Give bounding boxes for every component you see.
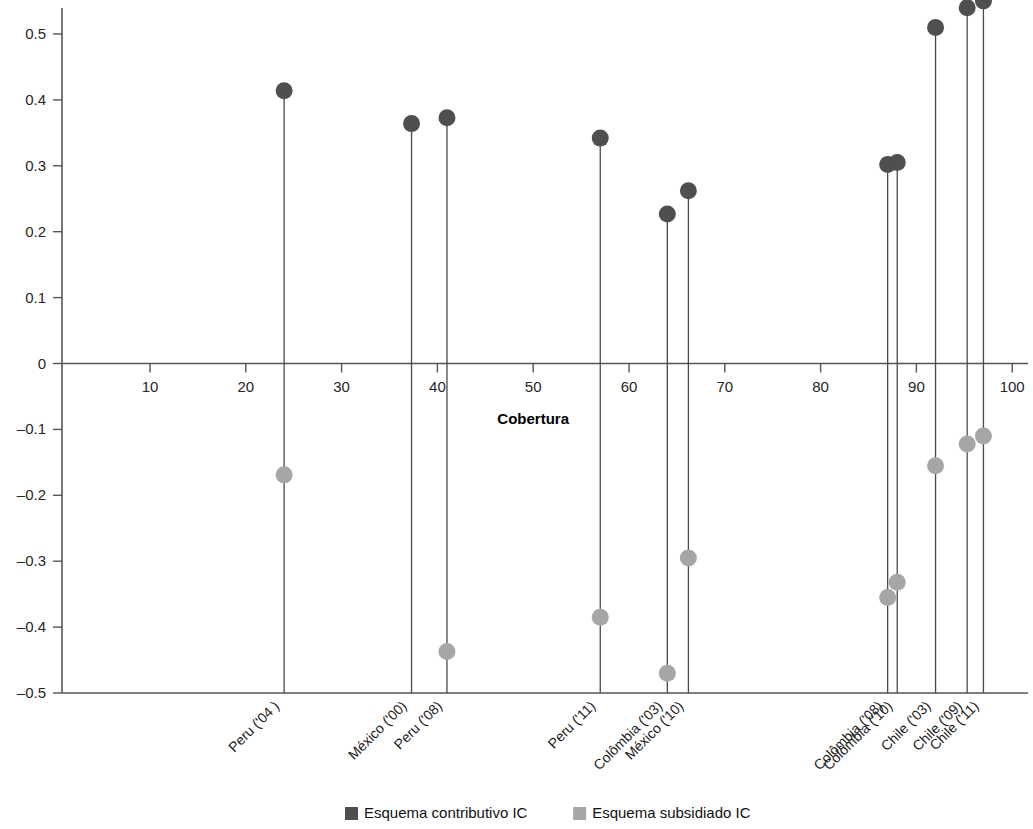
x-axis-ticks: 102030405060708090100 — [142, 364, 1025, 395]
y-tick-label: 0.3 — [25, 157, 46, 174]
category-label: México ('00) — [345, 698, 410, 763]
marker-subsidiado — [879, 589, 896, 606]
marker-contributivo — [276, 82, 293, 99]
chart-legend: Esquema contributivo ICEsquema subsidiad… — [345, 804, 751, 821]
marker-contributivo — [889, 154, 906, 171]
x-tick-label: 90 — [908, 378, 925, 395]
y-tick-label: 0.5 — [25, 25, 46, 42]
category-labels: Peru ('04 )México ('00)Peru ('08)Peru ('… — [225, 698, 982, 773]
x-tick-label: 60 — [621, 378, 638, 395]
marker-contributivo — [438, 109, 455, 126]
marker-subsidiado — [438, 643, 455, 660]
y-axis-ticks: 0.50.40.30.20.10–0.1–0.2–0.3–0.4–0.5 — [17, 25, 62, 701]
marker-subsidiado — [959, 435, 976, 452]
y-tick-label: 0.1 — [25, 289, 46, 306]
y-tick-label: –0.5 — [17, 684, 46, 701]
marker-subsidiado — [927, 457, 944, 474]
x-axis-title: Cobertura — [497, 410, 569, 427]
marker-contributivo — [975, 0, 992, 10]
data-markers — [276, 0, 992, 682]
legend-swatch — [345, 807, 358, 820]
y-tick-label: –0.4 — [17, 618, 46, 635]
marker-contributivo — [403, 115, 420, 132]
y-tick-label: –0.3 — [17, 552, 46, 569]
x-tick-label: 10 — [142, 378, 159, 395]
marker-subsidiado — [680, 549, 697, 566]
marker-subsidiado — [592, 609, 609, 626]
legend-label: Esquema contributivo IC — [364, 804, 528, 821]
marker-subsidiado — [975, 427, 992, 444]
y-tick-label: 0 — [38, 355, 46, 372]
x-tick-label: 30 — [333, 378, 350, 395]
chart-root: 0.50.40.30.20.10–0.1–0.2–0.3–0.4–0.5 102… — [0, 0, 1033, 829]
marker-contributivo — [659, 205, 676, 222]
y-tick-label: 0.4 — [25, 91, 46, 108]
marker-subsidiado — [276, 466, 293, 483]
legend-swatch — [573, 807, 586, 820]
marker-contributivo — [959, 0, 976, 16]
marker-subsidiado — [889, 574, 906, 591]
marker-contributivo — [592, 130, 609, 147]
stem-chart: 0.50.40.30.20.10–0.1–0.2–0.3–0.4–0.5 102… — [0, 0, 1033, 829]
legend-label: Esquema subsidiado IC — [592, 804, 751, 821]
x-tick-label: 80 — [812, 378, 829, 395]
x-tick-label: 100 — [1000, 378, 1025, 395]
marker-subsidiado — [659, 665, 676, 682]
y-tick-label: –0.1 — [17, 420, 46, 437]
y-tick-label: –0.2 — [17, 486, 46, 503]
x-tick-label: 70 — [716, 378, 733, 395]
x-tick-label: 40 — [429, 378, 446, 395]
x-tick-label: 20 — [237, 378, 254, 395]
category-label: Peru ('04 ) — [225, 698, 282, 755]
y-tick-label: 0.2 — [25, 223, 46, 240]
marker-contributivo — [927, 19, 944, 36]
marker-contributivo — [680, 182, 697, 199]
category-label: Peru ('11) — [545, 698, 599, 752]
x-tick-label: 50 — [525, 378, 542, 395]
stem-lines — [284, 1, 983, 693]
